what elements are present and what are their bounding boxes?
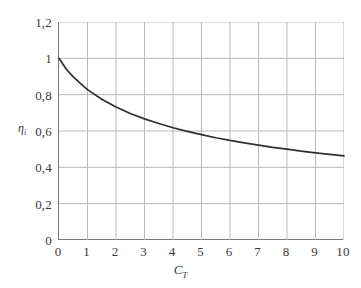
y-axis-tick-label: 1,2 (35, 16, 52, 29)
x-axis-tick-label: 4 (169, 245, 176, 258)
x-axis-tick-label: 8 (283, 245, 290, 258)
y-axis-tick-label: 0,6 (35, 125, 52, 138)
x-axis-tick-label: 2 (112, 245, 119, 258)
x-axis-tick-label: 7 (254, 245, 261, 258)
x-axis-tick-label: 3 (140, 245, 147, 258)
y-axis-tick-label: 0,8 (35, 88, 52, 101)
y-axis-tick-label: 0,2 (35, 197, 52, 210)
x-axis-tick-label: 6 (226, 245, 233, 258)
plot-area (58, 22, 343, 240)
x-axis-title: CT (0, 263, 361, 280)
x-axis-title-subscript: T (182, 270, 187, 280)
x-axis-tick-label: 0 (55, 245, 62, 258)
x-axis-tick-label: 5 (197, 245, 204, 258)
y-axis-title: ηi (18, 122, 26, 137)
data-curve (59, 22, 344, 240)
y-axis-tick-label: 1 (45, 52, 52, 65)
y-axis-tick-label: 0 (45, 234, 52, 247)
x-axis-tick-label: 9 (311, 245, 318, 258)
y-axis-tick-label: 0,4 (35, 161, 52, 174)
x-axis-tick-labels: 012345678910 (58, 245, 343, 263)
chart-figure: 00,20,40,60,811,2 ηi 012345678910 CT (0, 0, 361, 288)
x-axis-tick-label: 1 (83, 245, 90, 258)
y-axis-title-subscript: i (24, 128, 26, 137)
x-axis-tick-label: 10 (336, 245, 349, 258)
